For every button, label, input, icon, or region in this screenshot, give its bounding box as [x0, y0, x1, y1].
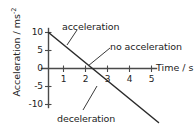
y-axis-label-exponent: -2 — [10, 8, 18, 14]
leader-acceleration — [67, 30, 77, 45]
annotation-acceleration: acceleration — [62, 22, 119, 32]
annotation-no-acceleration: no acceleration — [110, 42, 182, 52]
x-tick-label-2: 2 — [78, 75, 93, 84]
x-axis-label: Time / s — [156, 62, 193, 73]
y-tick-label-minus-10: -10 — [18, 100, 43, 109]
x-tick-label-3: 3 — [100, 75, 115, 84]
x-tick-label-1: 1 — [56, 75, 71, 84]
leader-deceleration — [83, 86, 97, 110]
x-tick-label-5: 5 — [144, 75, 159, 84]
y-tick-label-5: 5 — [20, 46, 43, 55]
x-tick-label-4: 4 — [122, 75, 137, 84]
annotation-deceleration: deceleration — [57, 114, 115, 124]
y-tick-label-0: 0 — [20, 64, 43, 73]
acceleration-time-graph: Acceleration / ms-2 10 5 0 -5 -10 1 2 3 … — [0, 0, 195, 133]
leader-no-acceleration — [88, 48, 110, 66]
y-tick-label-minus-5: -5 — [20, 82, 43, 91]
y-tick-label-10: 10 — [20, 28, 43, 37]
